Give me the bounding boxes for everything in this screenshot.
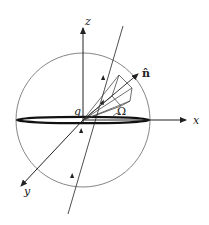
origin-angle-label: q — [74, 106, 81, 117]
normal-label: n̂ — [142, 68, 150, 79]
y-axis-label: y — [24, 186, 30, 197]
x-axis-label: x — [193, 115, 199, 126]
ray-direction-upper-icon — [101, 75, 105, 80]
solid-angle-label: Ω — [117, 106, 126, 117]
diagram-canvas: z x y n̂ q Ω — [0, 0, 209, 225]
ray-direction-lower-icon — [70, 173, 74, 178]
y-axis — [21, 120, 83, 186]
z-axis-label: z — [85, 16, 91, 27]
ray-direction-mid-icon — [79, 128, 83, 133]
sphere-diagram — [0, 0, 209, 225]
